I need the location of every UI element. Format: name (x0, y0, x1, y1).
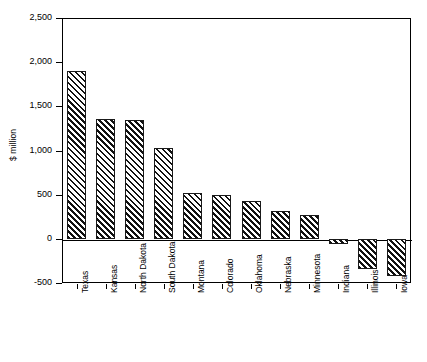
x-axis-category-label: Colorado (226, 259, 235, 294)
bar (271, 211, 290, 239)
x-axis-category-label: Texas (81, 271, 90, 293)
bar (67, 71, 86, 239)
y-axis-tick-label: 1,000 (8, 146, 52, 155)
x-axis-tick-mark (251, 284, 252, 289)
x-axis-category-label: Iowa (400, 275, 409, 293)
bar (242, 201, 261, 239)
y-axis-tick-label: -500 (8, 278, 52, 287)
bar (300, 215, 319, 239)
y-axis-tick-mark (56, 151, 62, 152)
y-axis-tick-mark (56, 106, 62, 107)
y-axis-tick-mark (56, 62, 62, 63)
bar (387, 239, 406, 276)
x-axis-tick-mark (309, 284, 310, 289)
x-axis-category-label: Indiana (342, 265, 351, 293)
x-axis-category-label: Montana (197, 260, 206, 293)
y-axis-tick-label: 1,500 (8, 101, 52, 110)
x-axis-tick-mark (338, 284, 339, 289)
x-axis-tick-mark (280, 284, 281, 289)
x-axis-tick-mark (222, 284, 223, 289)
bar (183, 193, 202, 238)
y-axis-tick-mark (56, 239, 62, 240)
x-axis-category-label: Oklahoma (255, 254, 264, 293)
x-axis-tick-mark (164, 284, 165, 289)
y-axis-tick-label: 2,500 (8, 13, 52, 22)
x-axis-category-label: North Dakota (139, 243, 148, 293)
bar (358, 239, 377, 269)
x-axis-tick-mark (106, 284, 107, 289)
bar (125, 120, 144, 239)
bar (96, 119, 115, 239)
y-axis-tick-mark (56, 283, 62, 284)
y-axis-tick-labels: 2,5002,0001,5001,0005000-500 (0, 0, 52, 362)
y-axis-tick-label: 500 (8, 190, 52, 199)
y-axis-tick-label: 0 (8, 234, 52, 243)
y-axis-tick-mark (56, 195, 62, 196)
x-axis-category-label: Kansas (110, 265, 119, 293)
bar (154, 148, 173, 239)
x-axis-category-label: Nebraska (284, 257, 293, 293)
x-axis-category-label: Illinois (371, 269, 380, 293)
x-axis-tick-mark (77, 284, 78, 289)
x-axis-category-label: South Dakota (168, 241, 177, 293)
bar (329, 239, 348, 244)
x-axis-tick-mark (135, 284, 136, 289)
x-axis-category-label: Minnesota (313, 254, 322, 293)
y-axis-tick-mark (56, 18, 62, 19)
bar-chart: $ million 2,5002,0001,5001,0005000-500 T… (0, 0, 427, 362)
bar (212, 195, 231, 239)
y-axis-tick-label: 2,000 (8, 57, 52, 66)
x-axis-tick-mark (193, 284, 194, 289)
x-axis-tick-mark (367, 284, 368, 289)
x-axis-tick-mark (396, 284, 397, 289)
